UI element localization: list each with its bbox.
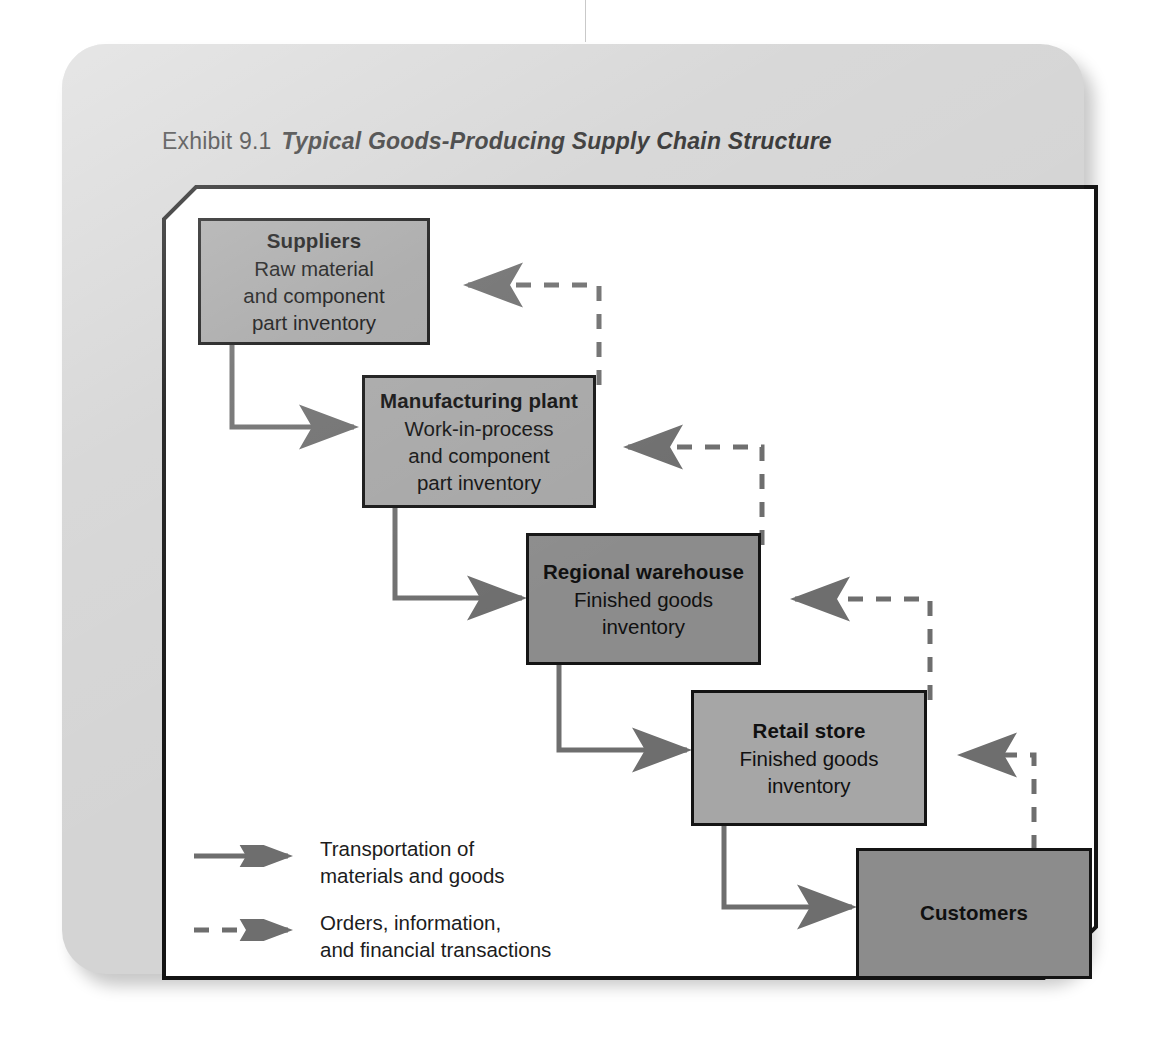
- legend-item-transportation: Transportation of materials and goods: [192, 835, 612, 909]
- node-suppliers-title: Suppliers: [267, 227, 361, 254]
- legend-transportation-line-1: Transportation of: [320, 835, 505, 862]
- node-retail-store-title: Retail store: [753, 717, 866, 744]
- node-suppliers-line-2: and component: [243, 282, 384, 309]
- legend-item-orders-information: Orders, information, and financial trans…: [192, 909, 612, 983]
- exhibit-page: Exhibit 9.1Typical Goods-Producing Suppl…: [0, 0, 1164, 1058]
- node-manufacturing-plant[interactable]: Manufacturing plant Work-in-process and …: [362, 375, 596, 508]
- node-suppliers-line-3: part inventory: [252, 309, 376, 336]
- legend-transportation-text: Transportation of materials and goods: [320, 835, 505, 890]
- legend: Transportation of materials and goods: [192, 835, 612, 983]
- node-regional-warehouse-line-2: inventory: [602, 613, 685, 640]
- exhibit-caption: Exhibit 9.1Typical Goods-Producing Suppl…: [162, 128, 832, 155]
- exhibit-card: Exhibit 9.1Typical Goods-Producing Suppl…: [62, 44, 1084, 974]
- solid-arrow-icon: [192, 845, 304, 867]
- node-regional-warehouse-line-1: Finished goods: [574, 586, 713, 613]
- page-scan-artifact: [585, 0, 586, 42]
- node-retail-store-line-2: inventory: [767, 772, 850, 799]
- diagram-panel: Suppliers Raw material and component par…: [162, 185, 1098, 980]
- legend-orders-information-line-1: Orders, information,: [320, 909, 551, 936]
- legend-orders-information-line-2: and financial transactions: [320, 936, 551, 963]
- exhibit-title: Typical Goods-Producing Supply Chain Str…: [282, 128, 832, 154]
- node-suppliers[interactable]: Suppliers Raw material and component par…: [198, 218, 430, 345]
- node-manufacturing-plant-title: Manufacturing plant: [380, 387, 578, 414]
- node-retail-store[interactable]: Retail store Finished goods inventory: [691, 690, 927, 826]
- node-retail-store-line-1: Finished goods: [739, 745, 878, 772]
- node-regional-warehouse[interactable]: Regional warehouse Finished goods invent…: [526, 533, 761, 665]
- dashed-arrow-icon: [192, 919, 304, 941]
- node-customers-title: Customers: [920, 899, 1028, 926]
- node-suppliers-line-1: Raw material: [254, 255, 374, 282]
- node-manufacturing-plant-line-2: and component: [408, 442, 549, 469]
- node-manufacturing-plant-line-3: part inventory: [417, 469, 541, 496]
- legend-orders-information-text: Orders, information, and financial trans…: [320, 909, 551, 964]
- node-customers[interactable]: Customers: [856, 848, 1092, 979]
- node-regional-warehouse-title: Regional warehouse: [543, 558, 744, 585]
- node-manufacturing-plant-line-1: Work-in-process: [405, 415, 554, 442]
- legend-transportation-line-2: materials and goods: [320, 862, 505, 889]
- exhibit-label: Exhibit 9.1: [162, 128, 272, 154]
